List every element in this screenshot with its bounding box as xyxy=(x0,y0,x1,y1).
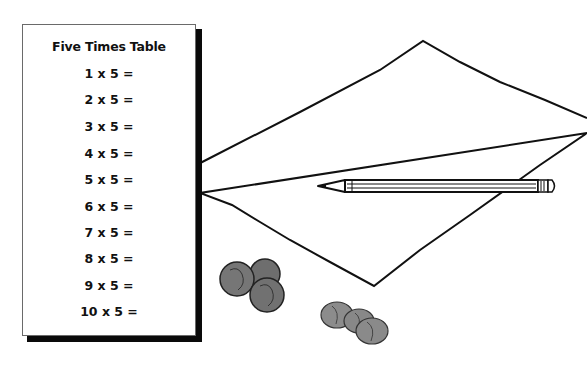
pennies-icon xyxy=(321,302,388,344)
times-table-row: 9 x 5 = xyxy=(23,278,195,293)
times-table-row: 5 x 5 = xyxy=(23,172,195,187)
pencil-icon xyxy=(318,180,555,192)
times-table-row: 10 x 5 = xyxy=(23,304,195,319)
times-table-row: 2 x 5 = xyxy=(23,92,195,107)
paper-sheet-icon xyxy=(173,41,587,286)
times-table-row: 1 x 5 = xyxy=(23,66,195,81)
times-table-row: 6 x 5 = xyxy=(23,199,195,214)
times-table-row: 7 x 5 = xyxy=(23,225,195,240)
times-table-row: 8 x 5 = xyxy=(23,251,195,266)
worksheet-card: Five Times Table 1 x 5 = 2 x 5 = 3 x 5 =… xyxy=(22,24,196,336)
nickels-icon xyxy=(220,259,284,312)
worksheet-title: Five Times Table xyxy=(23,39,195,54)
times-table-row: 3 x 5 = xyxy=(23,119,195,134)
times-table-row: 4 x 5 = xyxy=(23,146,195,161)
